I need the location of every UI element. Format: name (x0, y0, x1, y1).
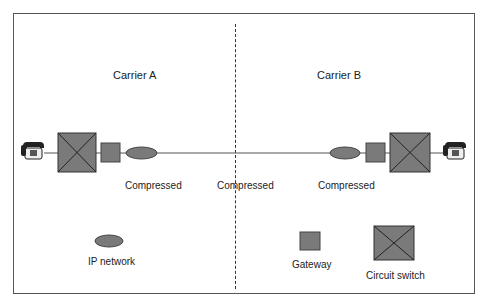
legend-ip-network-label: IP network (88, 256, 135, 267)
legend-circuit-switch-icon (374, 226, 414, 260)
ip-network-left (126, 147, 157, 159)
legend-circuit-switch-label: Circuit switch (366, 270, 425, 281)
link-label-left: Compressed (125, 180, 182, 191)
telephone-icon-right (443, 142, 466, 159)
legend-gateway-label: Gateway (292, 259, 331, 270)
circuit-switch-left (58, 133, 96, 172)
telephone-icon-left (21, 142, 44, 159)
ip-network-right (330, 147, 360, 159)
link-label-right: Compressed (318, 180, 375, 191)
gateway-left (101, 143, 120, 162)
gateway-right (366, 143, 385, 162)
link-label-center: Compressed (217, 180, 274, 191)
network-diagram (0, 0, 488, 305)
legend-gateway-icon (300, 232, 320, 250)
legend-ip-network-icon (95, 235, 123, 247)
circuit-switch-right (390, 133, 430, 172)
